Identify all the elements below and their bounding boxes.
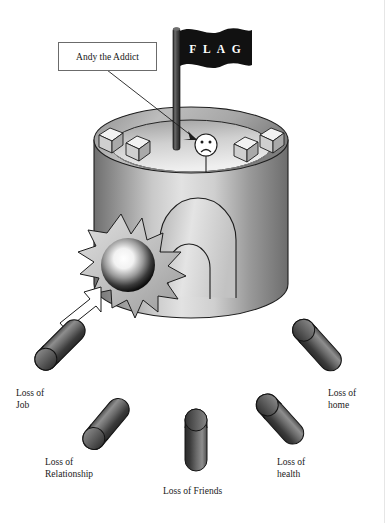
capsule-loss-of-job[interactable] xyxy=(30,315,89,374)
cannonball xyxy=(101,238,155,292)
figure-canvas: F L A G xyxy=(0,0,385,523)
andy-eye-left xyxy=(201,141,204,144)
callout-andy-the-addict[interactable]: Andy the Addict xyxy=(58,42,157,71)
capsule-loss-of-friends[interactable] xyxy=(185,409,207,471)
capsule-loss-of-relationship[interactable] xyxy=(78,394,133,454)
andy-head xyxy=(195,134,217,156)
label-loss-of-job: Loss of Job xyxy=(16,388,44,411)
flag-pole-cap xyxy=(173,27,180,30)
arch-outer xyxy=(160,198,236,298)
label-loss-of-home: Loss of home xyxy=(328,388,356,411)
flag-text: F L A G xyxy=(189,43,243,55)
doorway-arch xyxy=(160,198,236,299)
label-loss-of-health: Loss of health xyxy=(277,457,305,480)
capsules-group xyxy=(30,315,346,471)
andy-eye-right xyxy=(209,141,212,144)
capsule-loss-of-home[interactable] xyxy=(288,315,346,376)
callout-label: Andy the Addict xyxy=(76,52,139,62)
flag-pole xyxy=(173,28,180,150)
label-loss-of-relationship: Loss of Relationship xyxy=(45,457,93,480)
illustration: F L A G xyxy=(0,0,385,523)
label-loss-of-friends: Loss of Friends xyxy=(163,486,222,498)
capsule-loss-of-health[interactable] xyxy=(252,389,308,448)
